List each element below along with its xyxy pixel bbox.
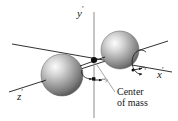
omega-y-label: ωy′ xyxy=(102,76,108,83)
diagram-svg xyxy=(0,0,178,121)
center-of-mass-point xyxy=(91,57,97,63)
x-axis-label: x′ xyxy=(157,66,164,80)
center-of-mass-line2: of mass xyxy=(117,97,148,108)
mass-sphere-right xyxy=(101,31,139,69)
y-axis-label: y′ xyxy=(77,5,84,19)
mass-sphere-left xyxy=(41,54,83,96)
omega-y-base-mark xyxy=(92,77,95,80)
figure-canvas: y′ x′ z′ ωy′ ωx′ Center of mass xyxy=(0,0,178,121)
center-of-mass-label: Center of mass xyxy=(117,86,148,108)
z-axis-label: z′ xyxy=(17,88,23,102)
omega-x-label: ωx′ xyxy=(141,64,147,71)
center-of-mass-line1: Center xyxy=(117,86,148,97)
omega-x-base-dot xyxy=(132,69,135,72)
